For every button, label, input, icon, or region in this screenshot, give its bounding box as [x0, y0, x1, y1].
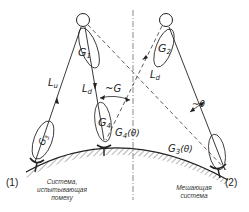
caption-left-line3: помеху: [51, 194, 73, 202]
label-lu: Lu: [48, 77, 59, 90]
label-g1: G1: [78, 46, 91, 60]
label-g3: G3: [36, 133, 50, 147]
label-ld-left: Ld: [82, 83, 93, 96]
label-g2: G2: [158, 42, 172, 56]
label-tilde-theta: ~θ: [192, 99, 206, 109]
caption-left-line2: испытывающая: [37, 186, 87, 194]
label-g3-theta: G3(θ): [168, 143, 193, 156]
label-g4: G4: [98, 116, 111, 130]
label-tilde-g: ~G: [105, 83, 121, 94]
interference-diagram: G1 G2 G3 G4 Lu Ld Ld ~G ~θ G4(θ) G3(θ) (…: [0, 0, 249, 212]
caption-left-line1: Система,: [47, 178, 78, 185]
satellite-1: [77, 14, 90, 27]
label-g4-theta: G4(θ): [115, 127, 140, 140]
satellite-2: [160, 14, 173, 27]
marker-1: (1): [6, 177, 18, 188]
caption-right-line1: Мешающая: [176, 184, 212, 192]
marker-2: (2): [225, 177, 237, 188]
label-ld-right: Ld: [150, 69, 161, 82]
caption-right-line2: система: [180, 192, 208, 199]
